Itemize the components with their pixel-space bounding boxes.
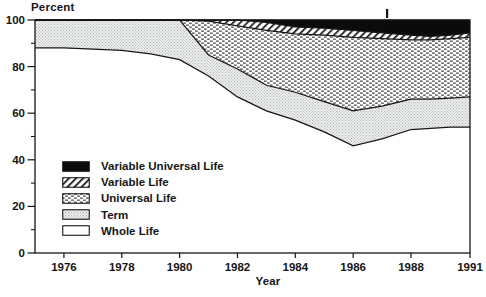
x-tick-label: 1986 [340,261,366,273]
legend-label: Whole Life [101,225,159,237]
x-tick-label: 1982 [225,261,251,273]
legend-item-variable-universal-life: Variable Universal Life [62,158,224,174]
x-axis-title: Year [240,275,296,287]
y-tick-label: 20 [12,200,25,212]
y-tick-label: 100 [6,14,25,26]
legend-label: Term [101,209,128,221]
legend-label: Universal Life [101,192,176,204]
legend-swatch-hatch [62,177,90,188]
legend-swatch-stipple [62,209,90,220]
x-tick-label: 1988 [398,261,424,273]
y-tick-label: 60 [12,107,25,119]
legend-swatch-black [62,161,90,172]
x-tick-label: 1976 [51,261,77,273]
x-tick-label: 1991 [457,261,483,273]
y-tick-label: 40 [12,154,25,166]
legend-label: Variable Life [101,176,169,188]
stacked-area-plot: 0204060801001976197819801982198419861988… [0,0,486,297]
x-tick-label: 1980 [167,261,193,273]
y-tick-label: 0 [19,247,25,259]
print-speck-artifact [386,9,388,18]
legend-item-variable-life: Variable Life [62,174,224,190]
x-tick-label: 1978 [109,261,135,273]
chart-figure: Percent 02040608010019761978198019821984… [0,0,486,297]
legend: Variable Universal Life Variable Life [62,158,224,239]
legend-item-universal-life: Universal Life [62,190,224,206]
y-tick-label: 80 [12,61,25,73]
legend-swatch-white [62,225,90,236]
x-tick-label: 1984 [283,261,309,273]
legend-label: Variable Universal Life [101,160,224,172]
legend-item-term: Term [62,207,224,223]
legend-item-whole-life: Whole Life [62,223,224,239]
legend-swatch-dots [62,193,90,204]
